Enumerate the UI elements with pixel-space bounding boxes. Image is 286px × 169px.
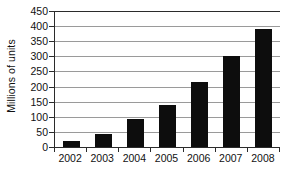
x-axis-tick-label: 2002: [54, 152, 86, 165]
x-axis-tick-label: 2006: [183, 152, 215, 165]
y-axis-tick-label: 400: [20, 21, 48, 31]
bar-2007: [223, 56, 240, 147]
y-axis-tick-label: 250: [20, 66, 48, 76]
x-axis-tick-label: 2007: [215, 152, 247, 165]
x-axis-tick-label: 2003: [86, 152, 118, 165]
y-axis-tick-label: 200: [20, 82, 48, 92]
bar-2008: [255, 29, 272, 147]
x-axis-tick-label: 2004: [118, 152, 150, 165]
y-axis-tick-label: 150: [20, 97, 48, 107]
y-axis-tick-label: 350: [20, 36, 48, 46]
y-axis-tick-label: 450: [20, 6, 48, 16]
y-axis-title-label: Millions of units: [5, 39, 17, 112]
y-axis-title: Millions of units: [0, 0, 22, 152]
y-axis-tick-label: 300: [20, 51, 48, 61]
bar-2005: [159, 105, 176, 147]
bars-layer: [55, 11, 280, 147]
y-axis-tick-label: 50: [20, 127, 48, 137]
x-axis-tick-labels: 2002200320042005200620072008: [54, 152, 279, 167]
y-axis-tick-labels: 050100150200250300350400450: [20, 6, 48, 152]
bar-2004: [127, 119, 144, 147]
plot-area: [54, 11, 280, 147]
bar-chart-figure: Millions of units 0501001502002503003504…: [0, 0, 286, 169]
x-axis-tick-label: 2008: [247, 152, 279, 165]
bar-2006: [191, 82, 208, 147]
x-axis-tick-label: 2005: [151, 152, 183, 165]
y-axis-tick-label: 100: [20, 112, 48, 122]
bar-2003: [95, 134, 112, 147]
x-axis-tick-mark: [279, 147, 280, 152]
y-axis-tick-label: 0: [20, 142, 48, 152]
